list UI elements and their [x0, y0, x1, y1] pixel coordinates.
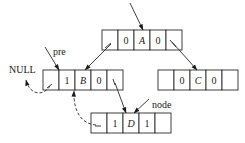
node-a-rtag: 0: [156, 35, 161, 46]
node-c-data: C: [195, 75, 202, 86]
node-d-rtag: 1: [145, 118, 150, 129]
node-c: 0 C 0: [158, 70, 238, 90]
node-b-ltag: 1: [65, 75, 70, 86]
node-b-lchild-cell: [43, 70, 59, 90]
threaded-binary-tree-diagram: 0 A 0 1 B 0 0 C 0 1 D 1: [0, 0, 245, 143]
node-b: 1 B 0: [43, 70, 123, 90]
node-a-ltag: 0: [124, 35, 129, 46]
node-a-data: A: [138, 35, 146, 46]
edge-a-to-b-arrow-icon: [85, 44, 111, 70]
root-arrow-icon: [130, 3, 143, 30]
node-d-data: D: [126, 118, 135, 129]
node-c-ltag: 0: [180, 75, 185, 86]
node-label: node: [152, 99, 172, 110]
node-b-data: B: [80, 75, 86, 86]
node-d-lchild-cell: [91, 113, 107, 133]
node-d-rchild-cell: [155, 113, 171, 133]
node-b-rtag: 0: [97, 75, 102, 86]
node-b-rchild-cell: [107, 70, 123, 90]
node-arrow-icon: [134, 99, 149, 113]
node-d-ltag: 1: [113, 118, 118, 129]
node-c-rtag: 0: [212, 75, 217, 86]
node-c-rchild-cell: [222, 70, 238, 90]
node-a-lchild-cell: [102, 30, 118, 50]
node-d: 1 D 1: [91, 113, 171, 133]
null-label: NULL: [9, 64, 36, 75]
pre-label: pre: [53, 46, 66, 57]
node-c-lchild-cell: [158, 70, 174, 90]
node-a-rchild-cell: [166, 30, 182, 50]
